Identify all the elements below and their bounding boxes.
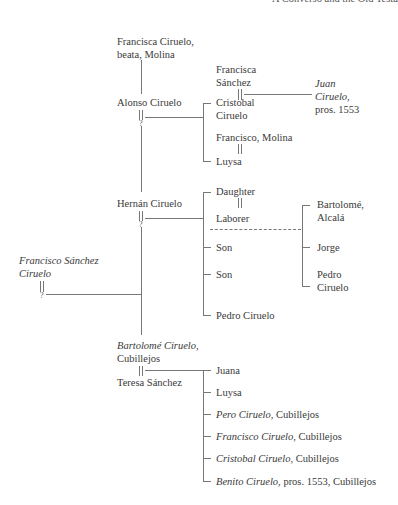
person-juan-line1: Juan bbox=[315, 77, 335, 90]
child-pero-ciruelo: Pero Ciruelo, Cubillejos bbox=[216, 408, 319, 421]
person-bartolome-alcala-line2: Alcalá bbox=[317, 211, 344, 224]
sibling-tick bbox=[203, 103, 211, 104]
person-son: Son bbox=[216, 268, 232, 281]
unknown-spouse: ? bbox=[40, 291, 44, 300]
child-juana: Juana bbox=[216, 364, 240, 377]
sibling-tick bbox=[203, 458, 211, 459]
sibling-tick bbox=[203, 370, 211, 371]
person-pedro-ciruelo: Pedro Ciruelo bbox=[216, 309, 275, 322]
person-bartolome-ciruelo-place: Cubillejos bbox=[117, 352, 160, 365]
person-juan-line2: Ciruelo, bbox=[315, 90, 350, 103]
running-header: A Converso and the Old Testa bbox=[272, 0, 398, 4]
person-francisca-sanchez-line2: Sánchez bbox=[216, 76, 251, 89]
person-francisca-ciruelo-line2: beata, Molina bbox=[117, 48, 175, 61]
children-connector bbox=[145, 218, 203, 219]
sibling-tick bbox=[203, 414, 211, 415]
child-benito-ciruelo: Benito Ciruelo, pros. 1553, Cubillejos bbox=[216, 475, 376, 488]
sibling-tick bbox=[203, 315, 211, 316]
person-pedro-grandchild-line2: Ciruelo bbox=[317, 281, 349, 294]
person-laborer: Laborer bbox=[216, 212, 249, 225]
grandchildren-bracket bbox=[302, 205, 303, 286]
person-jorge: Jorge bbox=[317, 241, 340, 254]
sibling-tick bbox=[203, 192, 211, 193]
person-francisco-molina: Francisco, Molina bbox=[216, 131, 292, 144]
children-connector bbox=[145, 117, 203, 118]
person-hernan-ciruelo: Hernán Ciruelo bbox=[117, 197, 182, 210]
person-cristobal-line1: Cristobal bbox=[216, 96, 255, 109]
sibling-tick bbox=[302, 247, 310, 248]
person-luysa: Luysa bbox=[216, 155, 242, 168]
person-bartolome-ciruelo: Bartolomé Ciruelo, bbox=[117, 339, 199, 352]
person-francisco-sanchez-ciruelo-line2: Ciruelo bbox=[19, 267, 51, 280]
person-francisca-ciruelo-line1: Francisca Ciruelo, bbox=[117, 35, 194, 48]
child-francisco-ciruelo: Francisco Ciruelo, Cubillejos bbox=[216, 430, 342, 443]
person-francisca-sanchez-line1: Francisca bbox=[216, 63, 256, 76]
sibling-tick bbox=[203, 436, 211, 437]
marriage-symbol bbox=[139, 366, 143, 376]
sibling-tick bbox=[302, 286, 310, 287]
marriage-symbol bbox=[238, 144, 242, 154]
dashed-descent-line bbox=[210, 229, 301, 230]
child-luysa: Luysa bbox=[216, 386, 242, 399]
person-bartolome-alcala-line1: Bartolomé, bbox=[317, 198, 364, 211]
person-son: Son bbox=[216, 241, 232, 254]
sibling-bracket bbox=[203, 103, 204, 161]
person-alonso-ciruelo: Alonso Ciruelo bbox=[117, 96, 181, 109]
person-francisco-sanchez-ciruelo-line1: Francisco Sánchez bbox=[19, 254, 99, 267]
descent-line bbox=[141, 60, 142, 94]
marriage-symbol bbox=[238, 198, 242, 208]
sibling-tick bbox=[203, 161, 211, 162]
sibling-tick bbox=[302, 205, 310, 206]
children-connector bbox=[46, 294, 141, 295]
sibling-tick bbox=[203, 274, 211, 275]
sibling-tick bbox=[203, 247, 211, 248]
sibling-tick bbox=[203, 481, 211, 482]
children-connector bbox=[145, 370, 203, 371]
descent-line bbox=[141, 227, 142, 335]
child-connector bbox=[244, 94, 312, 95]
person-pedro-grandchild-line1: Pedro bbox=[317, 268, 342, 281]
person-teresa-sanchez: Teresa Sánchez bbox=[117, 376, 182, 389]
sibling-bracket bbox=[203, 192, 204, 315]
descent-line bbox=[141, 126, 142, 192]
sibling-bracket bbox=[203, 370, 204, 481]
child-cristobal-ciruelo: Cristobal Ciruelo, Cubillejos bbox=[216, 452, 339, 465]
person-daughter: Daughter bbox=[216, 185, 255, 198]
sibling-tick bbox=[203, 392, 211, 393]
person-juan-line3: pros. 1553 bbox=[315, 103, 359, 116]
person-cristobal-line2: Ciruelo bbox=[216, 109, 248, 122]
